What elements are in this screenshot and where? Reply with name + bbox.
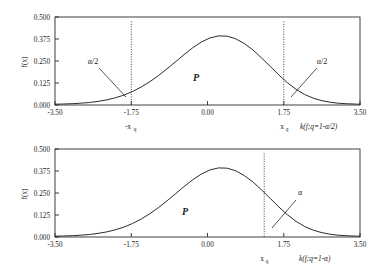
xtick-label: -3.50: [48, 241, 63, 249]
ytick-label: 0.500: [34, 146, 51, 154]
leader-line-alpha-half-left: [99, 68, 126, 97]
xtick-label: 3.50: [354, 241, 367, 249]
y-axis-title: f(x): [21, 56, 29, 67]
xtick-label: 0.00: [201, 109, 214, 117]
annotation-alpha-half-left: α/2: [88, 57, 98, 66]
figure-root: 0.500 0.375 0.250 0.125 0.000 f(x) -3.50: [0, 0, 381, 264]
y-axis-title: f(x): [21, 188, 29, 199]
ytick-label: 0.250: [34, 58, 51, 66]
quantile-label: x: [260, 254, 264, 263]
quantile-label-negative: -x: [125, 122, 131, 131]
quantile-formula-one-sided: k(f;q=1-α): [299, 254, 331, 263]
xtick-label: 1.75: [278, 109, 291, 117]
quantile-sublabel: q: [266, 258, 269, 264]
ytick-label: 0.375: [34, 36, 51, 44]
ytick-label: 0.250: [34, 190, 51, 198]
ytick-label: 0.375: [34, 168, 51, 176]
plot-frame: [55, 149, 360, 237]
leader-line-alpha-half-right: [291, 68, 317, 97]
plot-frame: [55, 17, 360, 105]
two-sided-plot-svg: 0.500 0.375 0.250 0.125 0.000 f(x) -3.50: [0, 0, 381, 132]
xtick-label: -1.75: [124, 241, 139, 249]
xtick-label: 3.50: [354, 109, 367, 117]
chart-panel-one-sided: 0.500 0.375 0.250 0.125 0.000 f(x) -3.50: [0, 132, 381, 264]
ytick-label: 0.125: [34, 212, 51, 220]
annotation-central-probability: P: [193, 72, 200, 83]
xtick-label: 1.75: [278, 241, 291, 249]
quantile-formula-two-sided: k(f;q=1-α/2): [300, 122, 338, 131]
ytick-label: 0.500: [34, 14, 51, 22]
quantile-label-positive: x: [280, 122, 284, 131]
annotation-alpha: α: [298, 188, 303, 197]
one-sided-plot-svg: 0.500 0.375 0.250 0.125 0.000 f(x) -3.50: [0, 132, 381, 264]
xtick-label: -1.75: [124, 109, 139, 117]
annotation-central-probability: P: [182, 206, 189, 217]
density-curve: [55, 168, 360, 236]
xtick-label: 0.00: [201, 241, 214, 249]
ytick-label: 0.125: [34, 80, 51, 88]
annotation-alpha-half-right: α/2: [317, 57, 327, 66]
xtick-label: -3.50: [48, 109, 63, 117]
chart-panel-two-sided: 0.500 0.375 0.250 0.125 0.000 f(x) -3.50: [0, 0, 381, 132]
